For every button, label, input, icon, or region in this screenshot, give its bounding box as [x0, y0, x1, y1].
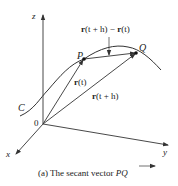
secant-vector-diagram: z y x 0 C P Q r(t) r(t + h) r(t + h) − r… [0, 0, 178, 186]
curve-label: C [18, 102, 25, 113]
x-axis [16, 124, 43, 154]
y-axis [43, 124, 168, 145]
vector-r-t [43, 60, 83, 124]
secant-difference-label: r(t + h) − r(t) [81, 24, 130, 34]
vector-r-t-label: r(t) [74, 77, 87, 87]
y-axis-label: y [162, 147, 167, 157]
x-axis-label: x [5, 149, 10, 159]
figure-caption: (a) The secant vector PQ [38, 168, 128, 178]
point-p-label: P [76, 50, 83, 61]
curve-c [20, 46, 161, 116]
vector-r-t-plus-h-label: r(t + h) [92, 91, 119, 101]
vector-r-t-plus-h [43, 54, 135, 124]
point-q [134, 51, 138, 55]
point-q-label: Q [139, 42, 147, 53]
origin-label: 0 [34, 118, 39, 128]
z-axis-label: z [31, 11, 36, 21]
